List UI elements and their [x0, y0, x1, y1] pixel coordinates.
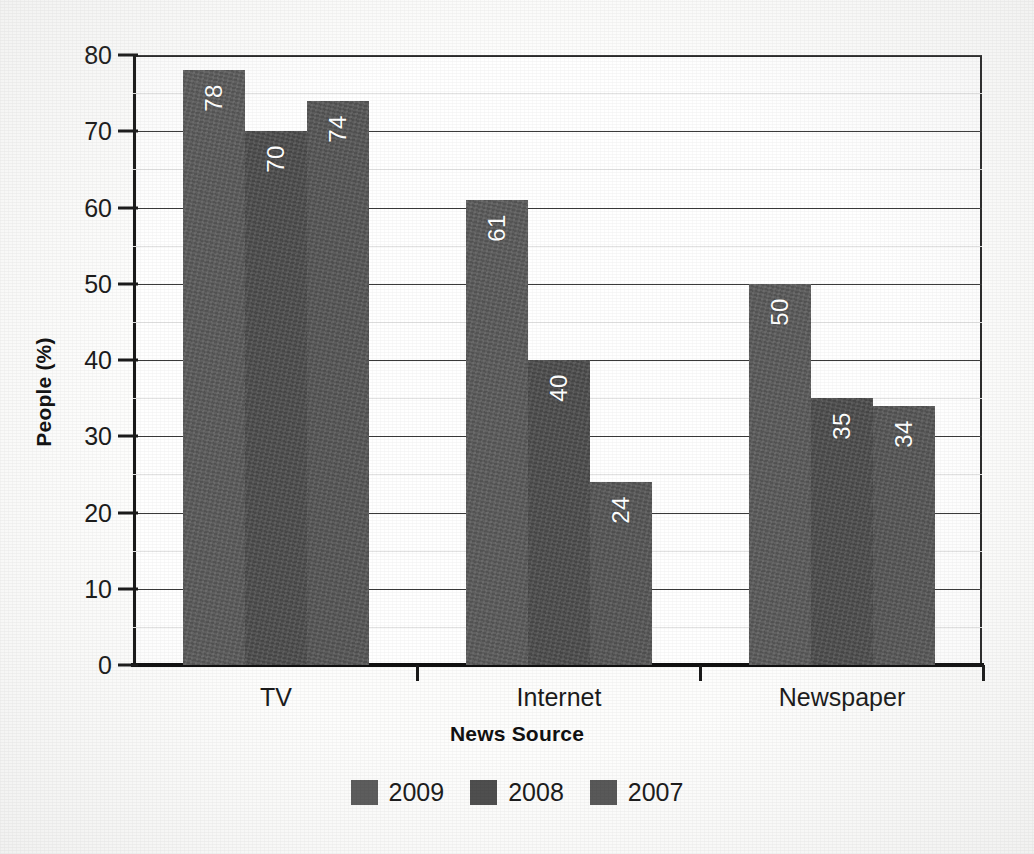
y-axis-tick-label: 0 — [38, 651, 112, 680]
y-axis-tick-label: 70 — [38, 117, 112, 146]
bar-group: 787074 — [183, 55, 369, 665]
bar-texture — [245, 131, 307, 665]
bar: 40 — [528, 360, 590, 665]
bar: 74 — [307, 101, 369, 665]
bar: 61 — [466, 200, 528, 665]
legend-item[interactable]: 2009 — [351, 778, 445, 807]
bar-value-label: 70 — [262, 145, 290, 173]
legend-swatch — [351, 780, 378, 805]
y-axis-tick-mark — [118, 282, 138, 285]
y-axis-tick-mark — [118, 587, 138, 590]
y-axis-tick-label: 10 — [38, 574, 112, 603]
y-axis-tick-label: 20 — [38, 498, 112, 527]
bar-value-label: 24 — [607, 496, 635, 524]
legend-item[interactable]: 2007 — [590, 778, 684, 807]
bar-texture — [466, 200, 528, 665]
x-axis-label: News Source — [0, 722, 1034, 746]
bar-group: 503534 — [749, 55, 935, 665]
x-axis-tick-mark — [416, 665, 419, 681]
y-axis-tick-label: 60 — [38, 193, 112, 222]
bar: 35 — [811, 398, 873, 665]
legend-label: 2007 — [628, 778, 684, 807]
bar: 24 — [590, 482, 652, 665]
y-axis-tick-mark — [118, 435, 138, 438]
bar-value-label: 50 — [766, 298, 794, 326]
bar-value-label: 35 — [828, 412, 856, 440]
legend: 200920082007 — [0, 778, 1034, 807]
bar-value-label: 40 — [545, 374, 573, 402]
y-axis-tick-mark — [118, 130, 138, 133]
bar: 50 — [749, 284, 811, 665]
legend-label: 2009 — [389, 778, 445, 807]
y-axis-tick-mark — [118, 359, 138, 362]
bar-group: 614024 — [466, 55, 652, 665]
legend-swatch — [470, 780, 497, 805]
legend-item[interactable]: 2008 — [470, 778, 564, 807]
y-axis-tick-label: 80 — [38, 41, 112, 70]
x-axis-tick-label: Newspaper — [779, 683, 905, 712]
y-axis-tick-mark — [118, 511, 138, 514]
x-axis-tick-mark — [699, 665, 702, 681]
bar-value-label: 61 — [483, 214, 511, 242]
bar: 78 — [183, 70, 245, 665]
legend-swatch — [590, 780, 617, 805]
bar-chart: 80706050403020100 787074614024503534 TVI… — [0, 0, 1034, 854]
x-axis-tick-mark — [982, 665, 985, 681]
bar-texture — [749, 284, 811, 665]
bar: 70 — [245, 131, 307, 665]
bar-texture — [183, 70, 245, 665]
bar-texture — [528, 360, 590, 665]
y-axis-tick-mark — [118, 206, 138, 209]
bar-value-label: 78 — [200, 84, 228, 112]
bar-texture — [307, 101, 369, 665]
x-axis-tick-label: Internet — [517, 683, 602, 712]
bar-value-label: 34 — [890, 420, 918, 448]
legend-label: 2008 — [508, 778, 564, 807]
bar-value-label: 74 — [324, 115, 352, 143]
y-axis-tick-mark — [118, 664, 138, 667]
bar: 34 — [873, 406, 935, 665]
y-axis-label: People (%) — [32, 282, 56, 502]
y-axis-tick-mark — [118, 54, 138, 57]
x-axis-tick-label: TV — [260, 683, 292, 712]
